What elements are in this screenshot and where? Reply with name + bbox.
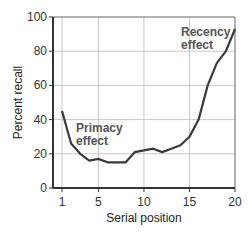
x-tick-label: 10 [137,195,151,209]
recency-annotation-line2: effect [181,38,213,52]
x-tick-label: 20 [228,195,242,209]
y-tick-label: 80 [34,44,48,58]
y-tick-label: 20 [34,147,48,161]
y-tick-label: 60 [34,78,48,92]
recency-annotation-line1: Recency [181,25,231,39]
y-tick-label: 0 [40,181,47,195]
serial-position-chart: 02040608010015101520Serial positionPerce… [0,0,251,236]
primacy-annotation-line2: effect [76,134,108,148]
x-tick-label: 15 [183,195,197,209]
x-tick-label: 5 [95,195,102,209]
x-axis-label: Serial position [106,211,181,225]
y-axis-label: Percent recall [11,66,25,139]
primacy-annotation-line1: Primacy [76,121,123,135]
x-tick-label: 1 [59,195,66,209]
y-tick-label: 40 [34,113,48,127]
y-tick-label: 100 [27,10,47,24]
